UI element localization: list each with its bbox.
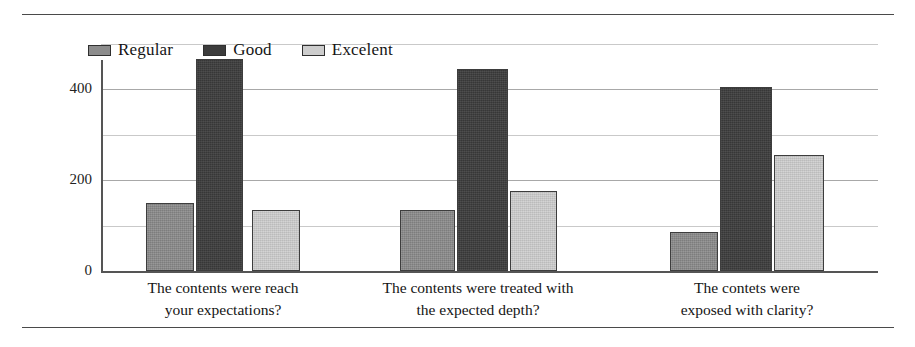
bar-good-group-1 (196, 59, 243, 271)
chart-legend: Regular Good Excelent (88, 40, 393, 60)
category-label-2: The contents were treated withthe expect… (338, 277, 618, 322)
category-label-3-line-1: The contets were (607, 277, 887, 299)
bar-excelent-group-1 (252, 210, 300, 271)
bar-chart: 0200400 Regular Good Excelent The conten… (0, 0, 915, 347)
bar-good-group-3 (720, 87, 772, 271)
category-label-2-line-2: the expected depth? (338, 299, 618, 321)
legend-label-regular: Regular (118, 40, 173, 60)
bar-regular-group-2 (400, 210, 455, 271)
legend-label-good: Good (233, 40, 272, 60)
bar-excelent-group-2 (510, 191, 557, 271)
bar-good-group-2 (457, 69, 508, 271)
legend-swatch-excelent-icon (302, 45, 325, 56)
category-label-1: The contents were reachyour expectations… (83, 277, 363, 322)
category-label-1-line-2: your expectations? (83, 299, 363, 321)
legend-item-good[interactable]: Good (203, 40, 272, 60)
category-label-2-line-1: The contents were treated with (338, 277, 618, 299)
legend-item-excelent[interactable]: Excelent (302, 40, 393, 60)
category-label-3-line-2: exposed with clarity? (607, 299, 887, 321)
legend-label-excelent: Excelent (332, 40, 393, 60)
bar-regular-group-3 (670, 232, 718, 271)
legend-swatch-regular-icon (88, 45, 111, 56)
legend-item-regular[interactable]: Regular (88, 40, 173, 60)
legend-swatch-good-icon (203, 45, 226, 56)
category-label-1-line-1: The contents were reach (83, 277, 363, 299)
category-label-3: The contets wereexposed with clarity? (607, 277, 887, 322)
bar-excelent-group-3 (774, 155, 824, 271)
bar-regular-group-1 (146, 203, 194, 271)
